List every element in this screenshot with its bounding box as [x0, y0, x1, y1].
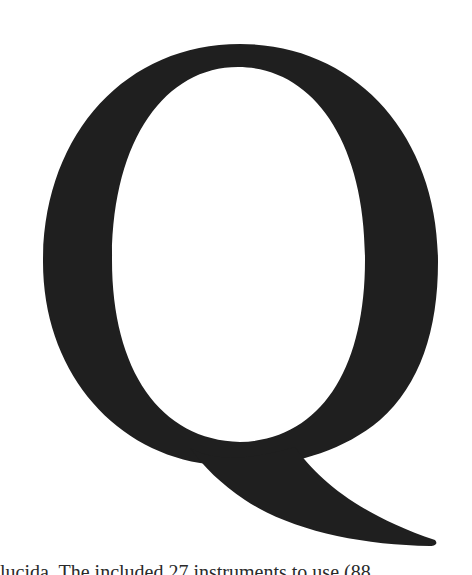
- clipped-body-text: lucida. The included 27 instruments to u…: [0, 561, 472, 575]
- letter-q-glyph: [0, 0, 472, 560]
- q-glyph-icon: [0, 0, 472, 560]
